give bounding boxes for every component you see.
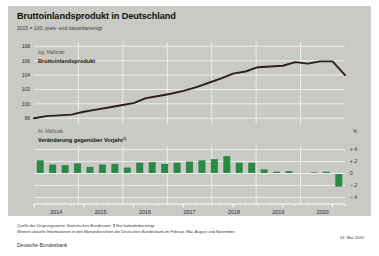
- publication-date: 19. Mai 2020: [340, 235, 364, 240]
- source-line-1: Quelle der Ursprungswerte: Statistisches…: [17, 223, 155, 228]
- chart-subtitle: 2015 = 100, preis- und saisonbereinigt: [17, 25, 102, 31]
- svg-text:2019: 2019: [272, 209, 284, 215]
- svg-text:100: 100: [22, 101, 31, 107]
- svg-text:2015: 2015: [95, 209, 107, 215]
- chart-svg: 98100102104106108 log. Maßstab Bruttoinl…: [8, 38, 371, 216]
- chart-footer: Quelle der Ursprungswerte: Statistisches…: [8, 216, 371, 250]
- plot-background: [8, 38, 371, 216]
- svg-text:2014: 2014: [50, 209, 62, 215]
- svg-text:2020: 2020: [317, 209, 329, 215]
- line-chart-scale-note: log. Maßstab: [38, 50, 65, 55]
- page-title: Bruttoinlandsprodukt in Deutschland: [17, 11, 176, 21]
- svg-text:102: 102: [22, 86, 31, 92]
- footnote-text: Nur kalenderbereinigt.: [116, 223, 155, 228]
- line-chart-series-label: Bruttoinlandsprodukt: [38, 58, 95, 64]
- svg-text:98: 98: [24, 115, 30, 121]
- footnote-marker: 1: [113, 223, 115, 228]
- svg-text:– 2: – 2: [350, 182, 357, 188]
- svg-text:106: 106: [22, 58, 31, 64]
- svg-text:+ 4: + 4: [350, 146, 357, 152]
- svg-text:0: 0: [350, 170, 353, 176]
- institution-label: Deutsche Bundesbank: [17, 242, 67, 248]
- svg-text:2017: 2017: [184, 209, 196, 215]
- chart-header: Bruttoinlandsprodukt in Deutschland 2015…: [8, 6, 371, 38]
- chart-figure: Bruttoinlandsprodukt in Deutschland 2015…: [0, 0, 379, 256]
- svg-text:104: 104: [22, 72, 31, 78]
- source-origin: Quelle der Ursprungswerte: Statistisches…: [17, 223, 112, 228]
- bar-chart-percent-label: %: [353, 129, 357, 134]
- plot-area: 98100102104106108 log. Maßstab Bruttoinl…: [8, 38, 371, 216]
- source-line-2: Weitere aktuelle Informationen in den Mo…: [17, 229, 235, 234]
- chart-canvas: Bruttoinlandsprodukt in Deutschland 2015…: [8, 6, 371, 250]
- svg-text:108: 108: [22, 43, 31, 49]
- bar-chart-series-label: Veränderung gegenüber Vorjahr1): [38, 137, 127, 143]
- svg-text:2016: 2016: [139, 209, 151, 215]
- svg-text:2018: 2018: [228, 209, 240, 215]
- bar-chart-scale-note: lin. Maßstab: [38, 129, 63, 134]
- svg-text:– 4: – 4: [350, 194, 357, 200]
- svg-text:+ 2: + 2: [350, 158, 357, 164]
